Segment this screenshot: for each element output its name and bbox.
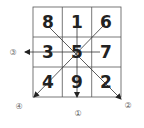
label-4: ④	[15, 102, 22, 111]
magic-square-diagram: 8 1 6 3 5 7 4 9 2 ① ② ③ ④	[0, 0, 144, 128]
cell-0-0: 8	[42, 12, 54, 32]
cell-1-2: 7	[100, 42, 112, 62]
cell-2-0: 4	[42, 72, 54, 92]
cell-2-2: 2	[100, 72, 112, 92]
label-1: ①	[74, 109, 81, 118]
cell-0-1: 1	[71, 12, 83, 32]
cell-2-1: 9	[71, 72, 83, 92]
cell-1-1: 5	[71, 42, 83, 62]
label-2: ②	[124, 101, 131, 110]
grid-numbers: 8 1 6 3 5 7 4 9 2	[42, 12, 112, 92]
cell-0-2: 6	[100, 12, 112, 32]
cell-1-0: 3	[42, 42, 54, 62]
label-3: ③	[9, 48, 16, 57]
